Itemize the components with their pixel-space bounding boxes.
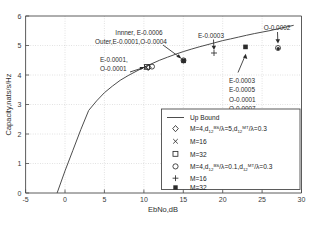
marker-cluster-dot — [182, 59, 186, 63]
y-tick-label: 4 — [18, 72, 22, 79]
marker-cluster-dot — [277, 47, 280, 50]
legend-marker-filled-square — [173, 185, 177, 189]
legend-label-sub: 12 — [209, 129, 214, 134]
legend-label-sub: 12 — [243, 167, 248, 172]
capacity-vs-ebno-plot: -5 0 5 10 15 20 25 30 0 1 2 3 4 5 6 — [0, 0, 318, 236]
legend-label-part: M=4,d — [190, 125, 209, 132]
annotation-line: O-0.0001 — [100, 65, 127, 72]
annotation-arrow — [238, 56, 245, 73]
annotation-right-block: E-0.0003 E-0.0005 O-0.0001 O-0.0007 — [229, 54, 256, 112]
legend-label-part: /λ=0.1,d — [219, 163, 243, 170]
x-tick-label: 5 — [102, 196, 106, 203]
annotation-left-pair: E-0.0001, O-0.0001 — [100, 56, 145, 73]
annotation-line: O-0.0002 — [264, 24, 291, 31]
legend[interactable]: Up Bound M=4,d12BS/λ=5,d12MT/λ=0.3 M=16 … — [162, 109, 301, 191]
y-axis-title: Capacity,nats/s/Hz — [4, 73, 13, 135]
legend-row-square[interactable]: M=32 — [173, 151, 207, 158]
y-tick-label: 1 — [18, 160, 22, 167]
annotation-line: E-0.0005 — [229, 86, 255, 93]
legend-label-part: /λ=0.3 — [249, 125, 267, 132]
legend-label: Up Bound — [190, 114, 220, 122]
x-axis-title: EbNo,dB — [148, 205, 178, 214]
y-tick-label: 0 — [18, 190, 22, 197]
annotation-line: Innner, E-0.0006 — [115, 29, 163, 36]
y-tick-label: 2 — [18, 131, 22, 138]
annotation-arrowhead — [212, 46, 216, 50]
legend-label-part: /λ=0.3 — [254, 163, 272, 170]
annotation-o-0002-top: O-0.0002 — [264, 24, 291, 44]
legend-label-part: /λ=5,d — [219, 125, 237, 132]
y-axis-ticks: 0 1 2 3 4 5 6 — [18, 13, 30, 197]
x-tick-label: 20 — [219, 196, 227, 203]
legend-label: M=32 — [190, 184, 207, 191]
marker-filled-square — [243, 45, 248, 50]
legend-label: M=32 — [190, 151, 207, 158]
legend-label: M=16 — [190, 138, 207, 145]
x-tick-label: 10 — [140, 196, 148, 203]
marker-plus — [211, 50, 217, 56]
chart-figure: -5 0 5 10 15 20 25 30 0 1 2 3 4 5 6 — [0, 0, 318, 236]
annotation-line: E-0.0003 — [198, 32, 224, 39]
legend-box — [162, 109, 301, 190]
legend-label-sub: 12 — [237, 129, 242, 134]
x-tick-label: 30 — [298, 196, 306, 203]
legend-label-sub: 12 — [209, 167, 214, 172]
data-markers — [144, 45, 281, 71]
legend-label-part: M=4,d — [190, 163, 209, 170]
legend-label: M=16 — [190, 175, 207, 182]
y-tick-label: 6 — [18, 13, 22, 20]
annotation-inner-outer: Innner, E-0.0006 Outer,E-0.0001,O-0.0004 — [95, 29, 181, 59]
annotation-line: Outer,E-0.0001,O-0.0004 — [95, 38, 167, 45]
x-tick-label: 0 — [63, 196, 67, 203]
annotation-line: E-0.0001, — [100, 56, 128, 63]
y-tick-label: 3 — [18, 101, 22, 108]
annotation-line: E-0.0003 — [229, 77, 255, 84]
x-tick-label: -5 — [22, 196, 28, 203]
annotation-arrowhead — [276, 39, 281, 43]
x-tick-label: 25 — [258, 196, 266, 203]
x-tick-label: 15 — [179, 196, 187, 203]
annotation-line: O-0.0001 — [229, 96, 256, 103]
y-tick-label: 5 — [18, 42, 22, 49]
x-axis-ticks: -5 0 5 10 15 20 25 30 — [22, 190, 305, 204]
